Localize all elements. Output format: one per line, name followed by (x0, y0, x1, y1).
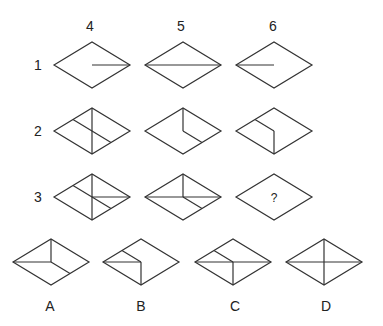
grid-figure-r1c4 (54, 42, 130, 88)
inner-line (255, 120, 274, 132)
grid-figure-r2c6 (236, 108, 312, 154)
column-header-6: 6 (269, 19, 277, 33)
column-header-4: 4 (86, 19, 94, 33)
option-figure-b[interactable] (103, 239, 179, 285)
diamond-figures (0, 0, 383, 326)
option-figure-a[interactable] (13, 239, 89, 285)
puzzle-stage: 4 5 6 1 2 3 ? A B C D (0, 0, 383, 326)
option-label-a[interactable]: A (45, 299, 54, 313)
inner-line (183, 131, 202, 143)
option-figure-d[interactable] (286, 239, 362, 285)
grid-figure-r1c5 (145, 42, 221, 88)
grid-figure-r3c5 (145, 174, 221, 220)
missing-figure-question-mark: ? (271, 191, 278, 205)
row-label-1: 1 (34, 58, 42, 72)
inner-line (214, 251, 233, 263)
grid-figure-r3c4 (54, 174, 130, 220)
inner-line (183, 197, 202, 209)
option-label-d[interactable]: D (321, 299, 331, 313)
inner-line (51, 262, 70, 274)
row-label-3: 3 (34, 190, 42, 204)
option-label-b[interactable]: B (136, 299, 145, 313)
row-label-2: 2 (34, 124, 42, 138)
option-label-c[interactable]: C (230, 299, 240, 313)
column-header-5: 5 (177, 19, 185, 33)
option-figure-c[interactable] (195, 239, 271, 285)
grid-figure-r1c6 (236, 42, 312, 88)
inner-line (122, 251, 141, 263)
grid-figure-r2c4 (54, 108, 130, 154)
grid-figure-r2c5 (145, 108, 221, 154)
